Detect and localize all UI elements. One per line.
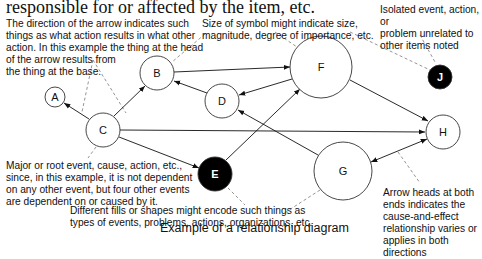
note-root-event: Major or root event, cause, action, etc.… xyxy=(6,160,192,208)
node-f-label: F xyxy=(318,61,325,73)
edge-c-a xyxy=(64,103,89,119)
node-c: C xyxy=(86,113,120,147)
edge-g-d xyxy=(238,110,318,155)
callout-root-event xyxy=(88,147,96,158)
edge-d-b xyxy=(174,81,207,93)
edge-g-h-bidirectional xyxy=(371,139,427,162)
note-arrow-direction: The direction of the arrow indicates suc… xyxy=(6,18,203,78)
diagram-caption: Example of a relationship diagram xyxy=(160,221,349,235)
node-c-label: C xyxy=(99,124,107,136)
node-h: H xyxy=(426,115,460,149)
node-j: J xyxy=(428,65,452,89)
node-e-label: E xyxy=(211,168,218,180)
edge-f-d xyxy=(239,79,292,95)
edges xyxy=(64,67,428,168)
note-symbol-size: Size of symbol might indicate size, magn… xyxy=(202,18,374,42)
node-d-label: D xyxy=(218,95,226,107)
callout-fills-e xyxy=(228,188,245,205)
node-g-label: G xyxy=(339,165,348,177)
node-a: A xyxy=(45,87,65,107)
edge-c-h xyxy=(120,130,425,132)
node-e: E xyxy=(198,157,232,191)
note-bidirectional: Arrow heads at both ends indicates the c… xyxy=(383,187,482,259)
callout-bidirectional xyxy=(398,152,420,183)
note-isolated: Isolated event, action, or problem unrel… xyxy=(380,4,482,52)
node-j-label: J xyxy=(437,71,443,83)
edge-f-h xyxy=(350,80,428,121)
node-g: G xyxy=(314,142,372,200)
node-h-label: H xyxy=(439,126,447,138)
node-d: D xyxy=(205,84,239,118)
node-f: F xyxy=(290,36,352,98)
node-a-label: A xyxy=(51,91,59,103)
edge-c-b xyxy=(114,86,145,116)
